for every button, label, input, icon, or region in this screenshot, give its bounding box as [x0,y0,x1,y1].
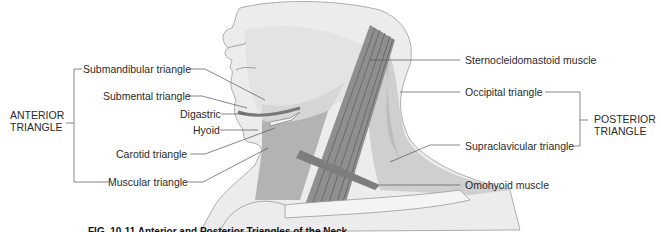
label-omohyoid-muscle: Omohyoid muscle [465,179,549,191]
posterior-bracket [545,92,580,146]
neck-anatomy-illustration [0,0,661,232]
anterior-triangle-group-label: ANTERIOR TRIANGLE [10,109,64,133]
label-muscular-triangle: Muscular triangle [108,176,188,188]
label-occipital-triangle: Occipital triangle [465,86,543,98]
label-digastric: Digastric [180,108,221,120]
label-supraclavicular-triangle: Supraclavicular triangle [465,140,574,152]
label-submental-triangle: Submental triangle [103,90,191,102]
figure-caption: FIG. 10-11 Anterior and Posterior Triang… [88,226,347,232]
anterior-bracket [74,69,110,182]
label-hyoid: Hyoid [193,124,220,136]
label-submandibular-triangle: Submandibular triangle [83,63,191,75]
posterior-triangle-group-label: POSTERIOR TRIANGLE [594,113,656,137]
label-carotid-triangle: Carotid triangle [116,148,187,160]
label-sternocleidomastoid-muscle: Sternocleidomastoid muscle [465,54,596,66]
